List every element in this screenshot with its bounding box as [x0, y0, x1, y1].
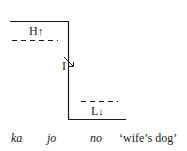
- gloss-text: ‘wife’s dog’: [119, 132, 177, 144]
- mid-tone-label: I: [62, 60, 66, 72]
- word-ka: ka: [11, 132, 22, 144]
- low-tone-label: L↓: [91, 105, 104, 117]
- mid-tone-letter: I: [62, 59, 66, 73]
- high-tone-letter: H: [29, 24, 38, 38]
- down-arrow-icon: ↓: [98, 105, 104, 117]
- up-arrow-icon: ↑: [38, 25, 44, 37]
- pitch-contour-line: [10, 22, 126, 120]
- high-tone-label: H↑: [29, 25, 43, 37]
- word-jo: jo: [47, 132, 56, 144]
- word-no: no: [90, 132, 102, 144]
- pitch-contour-diagram: [0, 0, 187, 151]
